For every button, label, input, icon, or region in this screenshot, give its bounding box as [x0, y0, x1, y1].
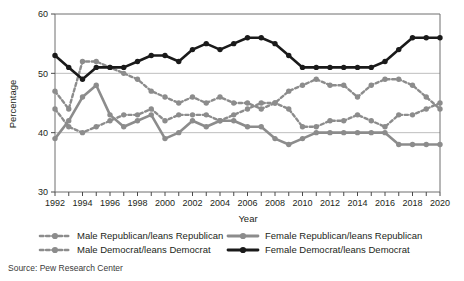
data-point: [314, 65, 319, 70]
data-point: [121, 71, 126, 76]
x-tick-label: 2018: [402, 198, 422, 208]
data-point: [176, 100, 181, 105]
data-point: [231, 100, 236, 105]
data-point: [80, 59, 85, 64]
data-point: [176, 112, 181, 117]
data-point: [52, 88, 57, 93]
data-point: [300, 124, 305, 129]
y-tick-label: 30: [38, 187, 48, 197]
data-point: [286, 142, 291, 147]
series-2: [52, 83, 442, 148]
data-point: [396, 77, 401, 82]
data-point: [52, 53, 57, 58]
data-point: [424, 35, 429, 40]
legend-marker: [52, 247, 58, 253]
legend-entry-3[interactable]: Female Democrat/leans Democrat: [228, 244, 410, 255]
x-tick-label: 1998: [127, 198, 147, 208]
data-point: [300, 83, 305, 88]
x-tick-label: 2008: [265, 198, 285, 208]
data-point: [94, 59, 99, 64]
data-point: [190, 112, 195, 117]
data-point: [396, 112, 401, 117]
data-point: [327, 130, 332, 135]
x-tick-label: 2004: [210, 198, 230, 208]
data-point: [80, 94, 85, 99]
data-point: [424, 142, 429, 147]
y-axis-tick-labels: 30405060: [38, 9, 48, 197]
source-note: Source: Pew Research Center: [8, 263, 123, 273]
data-point: [355, 112, 360, 117]
x-tick-label: 2010: [292, 198, 312, 208]
data-point: [437, 106, 442, 111]
data-point: [149, 88, 154, 93]
data-point: [437, 35, 442, 40]
data-point: [94, 124, 99, 129]
data-point: [341, 65, 346, 70]
data-point: [355, 130, 360, 135]
data-point: [135, 59, 140, 64]
data-point: [245, 100, 250, 105]
x-tick-label: 1994: [72, 198, 92, 208]
line-chart: 30405060 1992199419961998200020022004200…: [0, 0, 464, 281]
data-point: [231, 41, 236, 46]
data-point: [437, 100, 442, 105]
y-tick-label: 50: [38, 69, 48, 79]
chart-page: 30405060 1992199419961998200020022004200…: [0, 0, 464, 281]
data-point: [217, 94, 222, 99]
data-point: [190, 118, 195, 123]
data-point: [149, 106, 154, 111]
y-axis-title: Percentage: [7, 80, 18, 129]
data-point: [327, 65, 332, 70]
data-point: [204, 112, 209, 117]
data-point: [107, 118, 112, 123]
data-point: [162, 118, 167, 123]
x-tick-label: 1992: [45, 198, 65, 208]
data-point: [66, 65, 71, 70]
x-tick-label: 2012: [320, 198, 340, 208]
data-point: [204, 124, 209, 129]
legend-entry-1[interactable]: Male Democrat/leans Democrat: [40, 244, 211, 255]
chart-legend: Male Republican/leans RepublicanMale Dem…: [40, 230, 422, 255]
data-point: [66, 118, 71, 123]
data-point: [382, 77, 387, 82]
x-axis-tick-labels: 1992199419961998200020022004200620082010…: [45, 198, 450, 208]
data-point: [149, 112, 154, 117]
data-point: [272, 100, 277, 105]
data-point: [162, 53, 167, 58]
data-point: [259, 100, 264, 105]
x-tick-label: 2002: [182, 198, 202, 208]
data-point: [396, 142, 401, 147]
data-point: [314, 77, 319, 82]
data-point: [107, 112, 112, 117]
data-point: [52, 106, 57, 111]
legend-entry-2[interactable]: Female Republican/leans Republican: [228, 230, 422, 241]
data-point: [204, 41, 209, 46]
data-point: [300, 65, 305, 70]
data-point: [259, 124, 264, 129]
data-point: [286, 53, 291, 58]
data-point: [369, 130, 374, 135]
data-point: [217, 47, 222, 52]
data-point: [245, 124, 250, 129]
data-point: [272, 41, 277, 46]
legend-entry-0[interactable]: Male Republican/leans Republican: [40, 230, 223, 241]
x-axis-title: Year: [238, 213, 257, 224]
y-axis-ticks: [51, 14, 55, 192]
data-point: [135, 118, 140, 123]
legend-label: Male Republican/leans Republican: [77, 230, 223, 241]
y-tick-label: 40: [38, 128, 48, 138]
data-point: [135, 77, 140, 82]
data-point: [286, 88, 291, 93]
data-point: [382, 130, 387, 135]
data-point: [176, 130, 181, 135]
data-point: [410, 142, 415, 147]
data-point: [341, 83, 346, 88]
x-axis-ticks: [55, 192, 440, 196]
data-point: [176, 59, 181, 64]
data-point: [231, 118, 236, 123]
data-point: [217, 118, 222, 123]
x-tick-label: 2006: [237, 198, 257, 208]
data-point: [382, 59, 387, 64]
data-point: [396, 47, 401, 52]
data-point: [410, 83, 415, 88]
